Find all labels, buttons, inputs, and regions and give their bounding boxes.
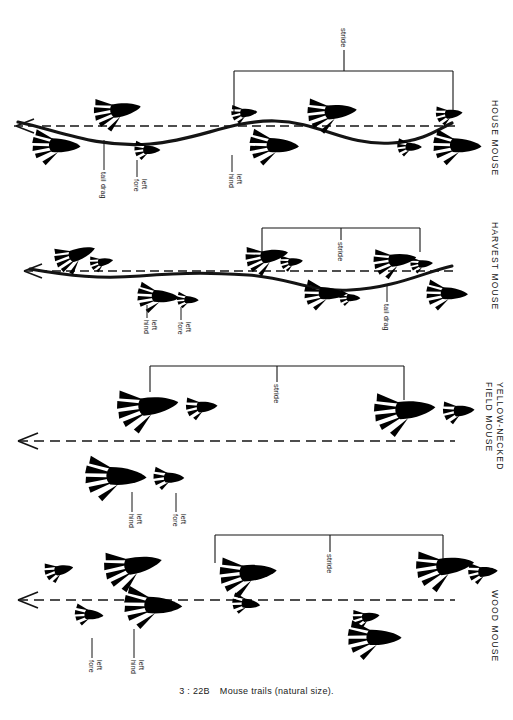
panel-wood-mouse (18, 535, 499, 661)
species-label-yellow-necked-field-mouse: YELLOW-NECKED FIELD MOUSE (483, 382, 505, 470)
footprint-hind (92, 93, 144, 134)
caption-text: Mouse trails (natural size). (220, 686, 334, 696)
footprint-fore (153, 467, 185, 491)
footprint-hind (218, 554, 278, 599)
species-label-house-mouse: HOUSE MOUSE (489, 100, 500, 176)
stride-label-yellow-necked-field-mouse: stride (272, 384, 281, 404)
callout-left-hind: left hind (127, 514, 143, 528)
footprint-fore (442, 399, 475, 425)
species-label-harvest-mouse: HARVEST MOUSE (489, 222, 500, 310)
panel-yellow-necked-field-mouse (18, 366, 475, 512)
mouse-trails-figure: HOUSE MOUSE tail drag left fore left hin… (0, 0, 513, 720)
callout-tail-drag: tail drag (99, 172, 107, 199)
footprint-hind (244, 240, 292, 278)
stride-label-house-mouse: stride (339, 28, 348, 48)
footprint-hind (347, 620, 402, 661)
footprint-hind (101, 543, 166, 595)
stride-label-wood-mouse: stride (325, 554, 334, 574)
footprint-hind (414, 546, 476, 594)
footprint-hind (432, 129, 483, 167)
footprint-hind (135, 281, 180, 316)
footprint-hind (83, 455, 148, 504)
footprint-hind (122, 586, 183, 632)
footprint-hind (373, 389, 438, 438)
callout-left-fore: left fore (176, 322, 192, 335)
stride-label-harvest-mouse: stride (336, 242, 345, 262)
callout-left-hind: left hind (227, 174, 243, 188)
caption-number: 3 : 22B (179, 686, 210, 696)
footprint-fore (74, 603, 105, 627)
tail-drag-line (18, 121, 452, 145)
callout-left-hind: left hind (142, 320, 158, 334)
footprint-hind (31, 129, 82, 167)
callout-left-fore: left fore (87, 660, 103, 673)
species-label-wood-mouse: WOOD MOUSE (489, 590, 500, 662)
footprint-fore (176, 292, 199, 310)
trail-plate (0, 0, 513, 720)
footprint-hind (248, 129, 300, 168)
footprint-hind (425, 279, 469, 312)
footprint-fore (43, 558, 76, 585)
callout-tail-drag: tail drag (382, 304, 390, 331)
callout-left-hind: left hind (129, 660, 145, 674)
callout-left-fore: left fore (171, 514, 187, 527)
footprint-fore (339, 290, 361, 307)
footprint-hind (115, 385, 181, 436)
callout-left-fore: left fore (132, 179, 148, 192)
footprint-fore (468, 561, 499, 585)
footprint-fore (185, 395, 218, 421)
panel-house-mouse (14, 50, 482, 177)
footprint-fore (231, 592, 262, 616)
figure-caption: 3 : 22BMouse trails (natural size). (0, 686, 513, 696)
panel-harvest-mouse (24, 228, 469, 320)
